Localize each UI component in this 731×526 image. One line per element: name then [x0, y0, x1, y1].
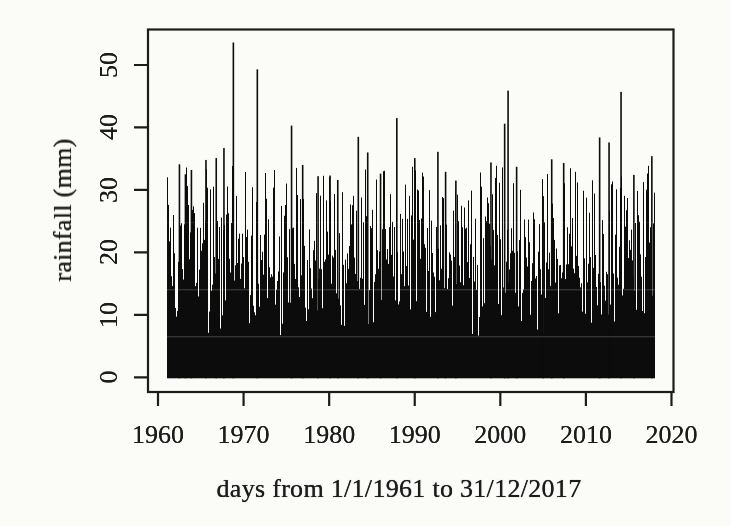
x-tick-label-1980: 1980: [303, 420, 355, 450]
x-tick-label-2000: 2000: [474, 420, 526, 450]
y-tick-label-10: 10: [94, 302, 124, 328]
x-tick-label-2020: 2020: [645, 420, 697, 450]
y-tick-label-0: 0: [94, 371, 124, 384]
x-tick-label-2010: 2010: [560, 420, 612, 450]
y-tick-label-20: 20: [94, 239, 124, 265]
x-tick-label-1990: 1990: [389, 420, 441, 450]
y-tick-label-40: 40: [94, 114, 124, 140]
x-tick-label-1960: 1960: [132, 420, 184, 450]
x-tick-label-1970: 1970: [218, 420, 270, 450]
rainfall-figure: rainfall (mm) days from 1/1/1961 to 31/1…: [0, 0, 731, 526]
y-axis-title: rainfall (mm): [48, 138, 78, 281]
x-axis-title: days from 1/1/1961 to 31/12/2017: [217, 474, 582, 504]
y-tick-label-30: 30: [94, 177, 124, 203]
y-tick-label-50: 50: [94, 52, 124, 78]
